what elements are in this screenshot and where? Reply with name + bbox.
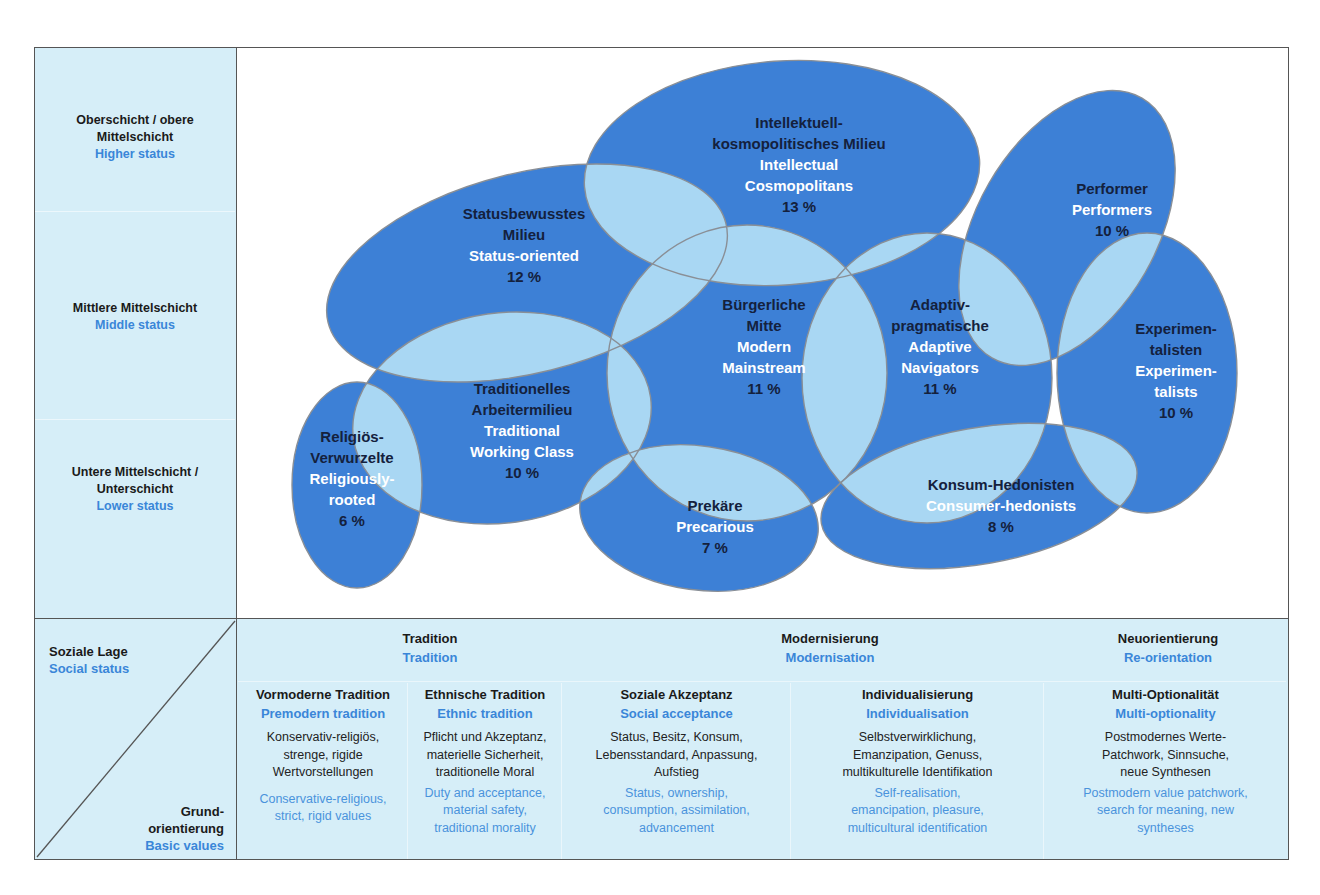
table-column-social-acceptance: Soziale Akzeptanz Social acceptance Stat… (562, 685, 791, 857)
milieu-label-performer: Performer Performers 10 % (1072, 178, 1152, 241)
milieu-label-konsum: Konsum-Hedonisten Consumer-hedonists 8 % (926, 474, 1076, 537)
milieu-label-experimentalisten: Experimen- talisten Experimen- talists 1… (1135, 318, 1217, 423)
band-divider (35, 419, 235, 420)
table-column-multi-optionality: Multi-Optionalität Multi-optionality Pos… (1044, 685, 1287, 857)
group-header-tradition: Tradition Tradition (403, 629, 458, 667)
milieu-label-intellectual: Intellektuell- kosmopolitisches Milieu I… (712, 112, 885, 217)
group-header-neuorientierung: Neuorientierung Re-orientation (1118, 629, 1218, 667)
band-divider (35, 211, 235, 212)
table-corner-cell: Soziale Lage Social status Grund- orient… (35, 619, 237, 859)
group-header-modernisierung: Modernisierung Modernisation (781, 629, 879, 667)
milieu-label-buergerlich: Bürgerliche Mitte Modern Mainstream 11 % (722, 294, 805, 399)
milieu-label-status: Statusbewusstes Milieu Status-oriented 1… (463, 203, 586, 287)
milieu-label-prekaere: Prekäre Precarious 7 % (676, 495, 754, 558)
milieu-label-religioes: Religiös- Verwurzelte Religiously- roote… (309, 426, 394, 531)
status-band-higher: Oberschicht / obere Mittelschicht Higher… (35, 112, 235, 163)
basic-values-table: Soziale Lage Social status Grund- orient… (35, 618, 1288, 859)
corner-social-status-label: Soziale Lage Social status (49, 643, 129, 677)
table-row-divider (238, 681, 1286, 682)
milieu-label-traditionell: Traditionelles Arbeitermilieu Traditiona… (470, 378, 574, 483)
table-column-premodern: Vormoderne Tradition Premodern tradition… (238, 685, 408, 857)
status-band-lower: Untere Mittelschicht / Unterschicht Lowe… (35, 464, 235, 515)
milieu-label-adaptiv: Adaptiv- pragmatische Adaptive Navigator… (891, 294, 989, 399)
milieu-chart-frame: Oberschicht / obere Mittelschicht Higher… (34, 47, 1289, 860)
corner-basic-values-label: Grund- orientierung Basic values (145, 803, 224, 854)
milieu-diagram: Intellektuell- kosmopolitisches Milieu I… (237, 48, 1288, 618)
social-status-axis: Oberschicht / obere Mittelschicht Higher… (35, 48, 237, 618)
status-band-middle: Mittlere Mittelschicht Middle status (35, 300, 235, 334)
table-column-individualisation: Individualisierung Individualisation Sel… (791, 685, 1044, 857)
table-column-ethnic: Ethnische Tradition Ethnic tradition Pfl… (408, 685, 562, 857)
